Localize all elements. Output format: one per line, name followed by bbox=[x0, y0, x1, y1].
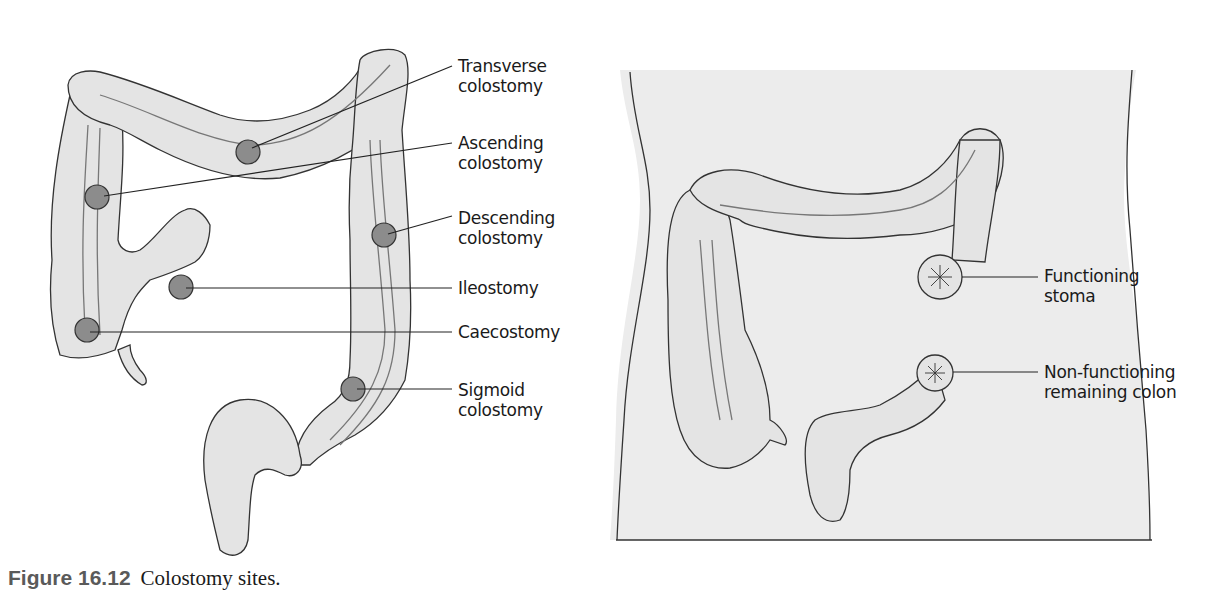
label-ascending-colostomy: Ascending colostomy bbox=[458, 133, 543, 173]
figure-caption: Figure 16.12Colostomy sites. bbox=[8, 566, 281, 591]
label-ileostomy: Ileostomy bbox=[458, 278, 538, 298]
figure-number: Figure 16.12 bbox=[8, 566, 131, 589]
label-caecostomy: Caecostomy bbox=[458, 322, 560, 342]
label-line: colostomy bbox=[458, 228, 555, 248]
label-line: Caecostomy bbox=[458, 322, 560, 342]
label-descending-colostomy: Descending colostomy bbox=[458, 208, 555, 248]
label-transverse-colostomy: Transverse colostomy bbox=[458, 56, 547, 96]
label-line: Ascending bbox=[458, 133, 543, 153]
label-functioning-stoma: Functioning stoma bbox=[1044, 266, 1139, 306]
stoma-caecostomy bbox=[75, 318, 99, 342]
stoma-descending bbox=[372, 223, 396, 247]
label-line: Non-functioning bbox=[1044, 362, 1176, 382]
stoma-ileostomy bbox=[169, 275, 193, 299]
left-colon-illustration bbox=[50, 50, 410, 556]
stoma-transverse bbox=[236, 140, 260, 164]
figure-caption-text: Colostomy sites. bbox=[141, 566, 281, 590]
label-line: Descending bbox=[458, 208, 555, 228]
label-line: Transverse bbox=[458, 56, 547, 76]
label-line: colostomy bbox=[458, 76, 547, 96]
label-line: Functioning bbox=[1044, 266, 1139, 286]
stoma-ascending bbox=[85, 185, 109, 209]
label-line: stoma bbox=[1044, 286, 1139, 306]
label-line: remaining colon bbox=[1044, 382, 1176, 402]
label-line: Sigmoid bbox=[458, 380, 543, 400]
label-line: colostomy bbox=[458, 400, 543, 420]
label-sigmoid-colostomy: Sigmoid colostomy bbox=[458, 380, 543, 420]
label-line: Ileostomy bbox=[458, 278, 538, 298]
label-nonfunctioning-colon: Non-functioning remaining colon bbox=[1044, 362, 1176, 402]
label-line: colostomy bbox=[458, 153, 543, 173]
